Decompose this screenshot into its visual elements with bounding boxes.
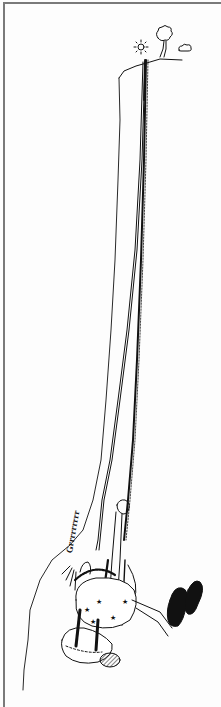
sun-icon: [134, 40, 148, 54]
svg-text:★: ★: [122, 598, 128, 606]
cloud-icon: [179, 44, 191, 51]
rope: [96, 60, 148, 550]
climber: ★ ★ ★ ★ ★: [62, 500, 203, 667]
illustration-frame: ★ ★ ★ ★ ★: [0, 0, 221, 707]
svg-text:★: ★: [90, 618, 96, 626]
svg-text:★: ★: [110, 614, 116, 622]
tree-icon: [157, 26, 173, 58]
svg-text:★: ★: [96, 598, 102, 606]
climber-illustration: ★ ★ ★ ★ ★: [0, 0, 221, 707]
svg-text:★: ★: [84, 606, 90, 614]
